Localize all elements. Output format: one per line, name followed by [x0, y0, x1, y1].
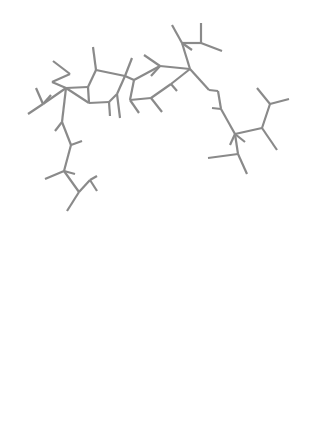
- bond: [90, 180, 97, 191]
- bond: [64, 145, 71, 171]
- molecule-ball-and-stick-image: [0, 0, 312, 221]
- bond: [270, 99, 289, 104]
- bond: [109, 94, 117, 102]
- bond: [125, 76, 134, 80]
- bond: [89, 102, 109, 103]
- bond: [66, 88, 89, 103]
- bond: [235, 128, 262, 134]
- bond: [55, 122, 62, 131]
- bond: [117, 94, 120, 118]
- ball-and-stick-panel: [0, 0, 312, 221]
- bond: [190, 69, 209, 90]
- bond: [212, 108, 221, 109]
- bond: [201, 43, 222, 51]
- bond: [117, 76, 125, 94]
- bond: [209, 90, 218, 91]
- molecule-vdw-surface-image: [0, 221, 312, 442]
- bond: [172, 25, 182, 43]
- bond: [171, 69, 190, 84]
- bond: [90, 176, 97, 180]
- bond: [221, 109, 235, 134]
- bond: [53, 61, 70, 74]
- bond: [171, 84, 177, 91]
- bond: [88, 87, 89, 103]
- bond: [66, 87, 88, 88]
- bond: [96, 70, 125, 76]
- bond: [151, 84, 171, 98]
- bond: [79, 180, 90, 192]
- bond: [109, 102, 110, 116]
- bond: [71, 141, 82, 145]
- bond: [67, 192, 79, 211]
- bond: [45, 171, 64, 179]
- bond: [218, 91, 221, 109]
- bond: [134, 66, 160, 80]
- bond: [52, 82, 66, 88]
- bond: [130, 100, 139, 113]
- bond: [257, 88, 270, 104]
- bond: [28, 104, 43, 114]
- bond: [262, 128, 277, 150]
- bond: [160, 66, 190, 69]
- bond: [125, 58, 132, 76]
- bond: [36, 88, 43, 104]
- bond: [52, 74, 70, 82]
- bond: [130, 98, 151, 100]
- bond: [93, 47, 96, 70]
- vdw-surface-panel: [0, 221, 312, 442]
- bond: [262, 104, 270, 128]
- bond: [208, 154, 238, 158]
- bond: [130, 80, 134, 100]
- bond: [238, 154, 247, 174]
- bond: [151, 98, 162, 112]
- bond: [88, 70, 96, 87]
- bond: [144, 55, 160, 66]
- bond: [62, 122, 71, 145]
- bond: [62, 88, 66, 122]
